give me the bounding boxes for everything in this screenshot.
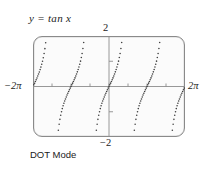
plot-area	[33, 36, 185, 137]
figure-caption: DOT Mode	[30, 149, 76, 160]
y-axis-min-label: −2	[100, 137, 111, 148]
y-axis-max-label: 2	[103, 22, 108, 33]
x-axis-max-label: 2π	[188, 80, 199, 91]
tangent-function-figure: y = tan x 2 −2 −2π 2π DOT Mode	[0, 0, 217, 171]
x-axis-min-label: −2π	[4, 80, 22, 91]
figure-title: y = tan x	[29, 12, 71, 24]
